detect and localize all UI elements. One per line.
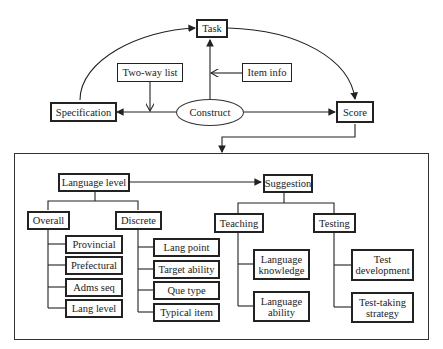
overall-item-provincial: Provincial (65, 235, 123, 254)
discrete-node: Discrete (115, 211, 162, 230)
diagram-canvas: Task Two-way list Item info Specificatio… (0, 0, 443, 349)
specification-node: Specification (50, 102, 117, 122)
overall-item-prefectural: Prefectural (65, 256, 123, 275)
discrete-item-que-type: Que type (153, 281, 220, 300)
item-info-node: Item info (242, 63, 292, 82)
score-node: Score (336, 101, 374, 123)
testing-node: Testing (313, 213, 356, 233)
language-level-node: Language level (58, 173, 130, 192)
discrete-item-lang-point: Lang point (153, 238, 220, 257)
overall-item-lang-level: Lang level (65, 299, 123, 318)
task-node: Task (196, 19, 228, 38)
discrete-item-typical-item: Typical item (153, 303, 220, 322)
overall-item-adms-seq: Adms seq (65, 278, 123, 297)
teaching-item-language-ability: Language ability (253, 291, 310, 322)
two-way-list-node: Two-way list (117, 63, 183, 82)
testing-item-test-development: Test development (351, 249, 414, 281)
teaching-item-language-knowledge: Language knowledge (253, 249, 310, 280)
overall-node: Overall (27, 211, 70, 230)
teaching-node: Teaching (214, 213, 264, 233)
construct-node: Construct (176, 99, 244, 126)
suggestion-node: Suggestion (263, 174, 313, 193)
testing-item-test-taking-strategy: Test-taking strategy (351, 292, 414, 323)
discrete-item-target-ability: Target ability (153, 260, 220, 279)
